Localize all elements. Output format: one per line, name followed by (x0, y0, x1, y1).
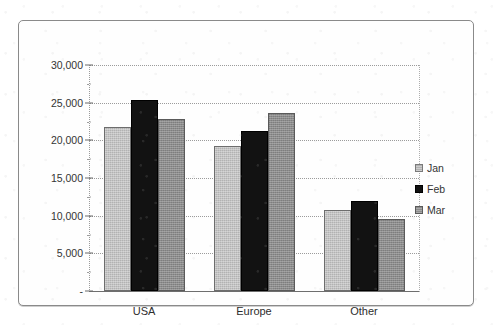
bar-europe-jan[interactable] (214, 146, 241, 291)
y-tick-mark-minor-2500 (87, 272, 91, 273)
chart-legend: JanFebMar (415, 157, 471, 220)
y-tick-mark-15000 (85, 178, 93, 179)
y-tick-mark-5000 (85, 253, 93, 254)
y-axis-tick-labels: -5,00010,00015,00020,00025,00030,000 (25, 21, 83, 307)
bar-other-feb[interactable] (351, 201, 378, 291)
bar-group-other (324, 65, 405, 291)
x-axis-baseline (89, 291, 419, 292)
y-tick-mark-10000 (85, 215, 93, 216)
legend-label-jan: Jan (427, 162, 444, 174)
bar-europe-mar[interactable] (268, 113, 295, 291)
legend-swatch-jan (415, 164, 423, 172)
legend-label-mar: Mar (427, 204, 445, 216)
bar-usa-mar[interactable] (158, 119, 185, 291)
chart-title-cropped (14, 0, 294, 7)
y-tick-mark-minor-12500 (87, 196, 91, 197)
legend-swatch-feb (415, 185, 423, 193)
y-tick-label-20000: 20,000 (27, 134, 83, 146)
y-tick-label-10000: 10,000 (27, 210, 83, 222)
legend-item-feb[interactable]: Feb (415, 178, 471, 199)
scanned-page-background: -5,00010,00015,00020,00025,00030,000 USA… (0, 0, 493, 325)
y-tick-label-0: - (27, 285, 83, 297)
y-tick-label-5000: 5,000 (27, 247, 83, 259)
chart-frame: -5,00010,00015,00020,00025,00030,000 USA… (18, 20, 474, 306)
bar-other-jan[interactable] (324, 210, 351, 291)
y-tick-mark-20000 (85, 140, 93, 141)
y-tick-mark-minor-27500 (87, 83, 91, 84)
bar-usa-jan[interactable] (104, 127, 131, 291)
y-tick-mark-30000 (85, 65, 93, 66)
legend-item-jan[interactable]: Jan (415, 157, 471, 178)
y-tick-mark-25000 (85, 102, 93, 103)
plot-area (89, 65, 419, 291)
y-tick-mark-minor-7500 (87, 234, 91, 235)
bar-other-mar[interactable] (378, 219, 405, 291)
legend-label-feb: Feb (427, 183, 445, 195)
legend-item-mar[interactable]: Mar (415, 199, 471, 220)
bar-europe-feb[interactable] (241, 131, 268, 291)
y-tick-label-15000: 15,000 (27, 172, 83, 184)
bar-group-usa (104, 65, 185, 291)
y-tick-label-30000: 30,000 (27, 59, 83, 71)
x-label-europe: Europe (236, 305, 271, 317)
y-tick-label-25000: 25,000 (27, 97, 83, 109)
y-tick-mark-minor-22500 (87, 121, 91, 122)
x-label-other: Other (350, 305, 378, 317)
y-tick-mark-minor-17500 (87, 159, 91, 160)
y-tick-mark-0 (85, 291, 93, 292)
bar-group-europe (214, 65, 295, 291)
legend-swatch-mar (415, 206, 423, 214)
bar-usa-feb[interactable] (131, 100, 158, 291)
x-label-usa: USA (133, 305, 156, 317)
